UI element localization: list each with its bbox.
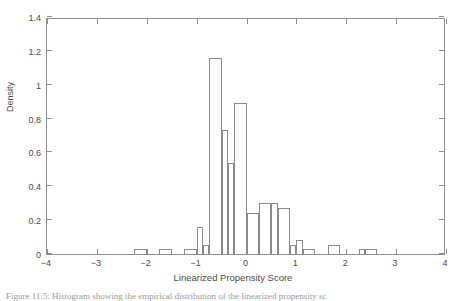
x-axis-tick	[346, 19, 347, 24]
x-axis-tick-label: 3	[393, 259, 398, 268]
y-axis-tick	[47, 185, 52, 186]
x-axis-tick-label: −3	[91, 259, 101, 268]
x-axis-tick	[346, 249, 347, 254]
y-axis-tick	[47, 118, 52, 119]
y-axis-tick	[47, 16, 52, 17]
y-axis-tick-label: 1	[0, 82, 41, 91]
x-axis-tick	[446, 19, 447, 24]
y-axis-tick-label: 0.2	[0, 217, 41, 226]
x-axis-tick-label: 4	[442, 259, 447, 268]
x-axis-tick	[396, 19, 397, 24]
histogram-bar	[234, 103, 246, 255]
x-axis-tick	[396, 249, 397, 254]
histogram-bar	[259, 203, 271, 254]
y-axis-tick-label: 1.2	[0, 48, 41, 57]
y-axis-tick	[439, 151, 444, 152]
x-axis-tick	[296, 19, 297, 24]
histogram-bar	[278, 208, 290, 254]
y-axis-tick-label: 0.8	[0, 116, 41, 125]
histogram-bar	[303, 249, 315, 254]
x-axis-tick	[47, 249, 48, 254]
y-axis-tick	[439, 50, 444, 51]
x-axis-tick	[296, 249, 297, 254]
y-axis-tick-label: 1.4	[0, 14, 41, 23]
x-axis-tick-label: 2	[343, 259, 348, 268]
histogram-bar	[365, 249, 377, 254]
histogram-bar	[134, 249, 146, 254]
x-axis-tick	[97, 249, 98, 254]
y-axis-tick	[439, 219, 444, 220]
y-axis-tick	[439, 16, 444, 17]
histogram-bar	[159, 249, 171, 254]
x-axis-tick	[446, 249, 447, 254]
histogram-bar	[328, 245, 340, 254]
y-axis-tick	[47, 219, 52, 220]
y-axis-tick	[439, 84, 444, 85]
x-axis-tick-label: 1	[293, 259, 298, 268]
histogram-bar	[247, 213, 259, 254]
x-axis-tick-label: 0	[243, 259, 248, 268]
histogram-bar	[184, 249, 196, 254]
x-axis-tick-label: −2	[141, 259, 151, 268]
x-axis-tick	[147, 19, 148, 24]
x-axis-tick	[47, 19, 48, 24]
y-axis-tick-label: 0	[0, 251, 41, 260]
plot-area	[46, 18, 445, 255]
y-axis-tick	[47, 151, 52, 152]
x-axis-tick	[197, 249, 198, 254]
histogram-bar	[209, 58, 221, 254]
x-axis-tick	[197, 19, 198, 24]
y-axis-tick	[439, 185, 444, 186]
y-axis-tick	[439, 118, 444, 119]
y-axis-tick	[439, 253, 444, 254]
y-axis-tick-label: 0.6	[0, 149, 41, 158]
x-axis-label: Linearized Propensity Score	[0, 273, 466, 283]
y-axis-tick	[47, 84, 52, 85]
y-axis-tick	[47, 50, 52, 51]
figure-caption: Figure 11.5: Histogram showing the empir…	[6, 291, 464, 301]
x-axis-tick-label: −1	[190, 259, 200, 268]
x-axis-tick	[147, 249, 148, 254]
y-axis-tick-label: 0.4	[0, 183, 41, 192]
x-axis-tick	[97, 19, 98, 24]
x-axis-tick-label: −4	[41, 259, 51, 268]
x-axis-tick	[247, 19, 248, 24]
x-axis-tick	[247, 249, 248, 254]
